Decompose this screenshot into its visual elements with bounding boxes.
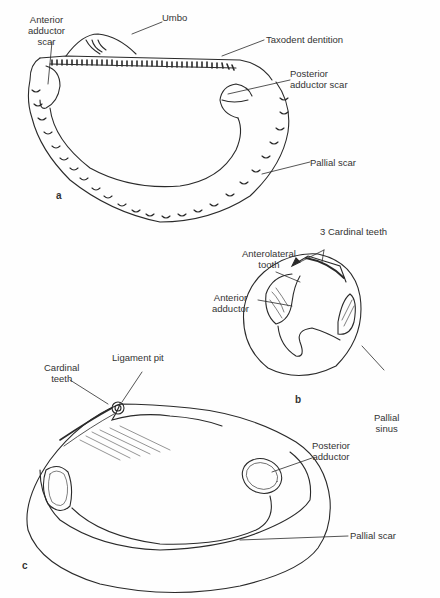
label-3-cardinal-teeth: 3 Cardinal teeth — [320, 226, 387, 237]
label-ligament-pit: Ligament pit — [112, 352, 164, 363]
label-anterior-adductor-scar: Anterior adductor scar — [28, 14, 65, 47]
shell-c-drawing — [27, 402, 330, 593]
label-cardinal-teeth-c: Cardinal teeth — [44, 362, 79, 384]
label-pallial-scar-a: Pallial scar — [310, 157, 356, 168]
label-anterolateral-tooth: Anterolateral tooth — [242, 248, 296, 270]
shell-a-drawing — [28, 34, 288, 222]
bivalve-shell-diagram: Anterior adductor scar Umbo Taxodent den… — [0, 0, 440, 598]
shell-b-drawing — [244, 254, 362, 376]
label-pallial-sinus: Pallial sinus — [374, 412, 399, 434]
panel-letter-c: c — [22, 560, 28, 571]
panel-letter-a: a — [56, 190, 62, 201]
label-posterior-adductor-scar: Posterior adductor scar — [290, 68, 348, 90]
label-pallial-scar-c: Pallial scar — [350, 530, 396, 541]
label-posterior-adductor-c: Posterior adductor — [312, 440, 350, 462]
label-taxodont-dentition: Taxodent dentition — [266, 34, 343, 45]
panel-letter-b: b — [295, 394, 301, 405]
label-umbo: Umbo — [162, 12, 187, 23]
label-anterior-adductor-b: Anterior adductor — [212, 292, 249, 314]
